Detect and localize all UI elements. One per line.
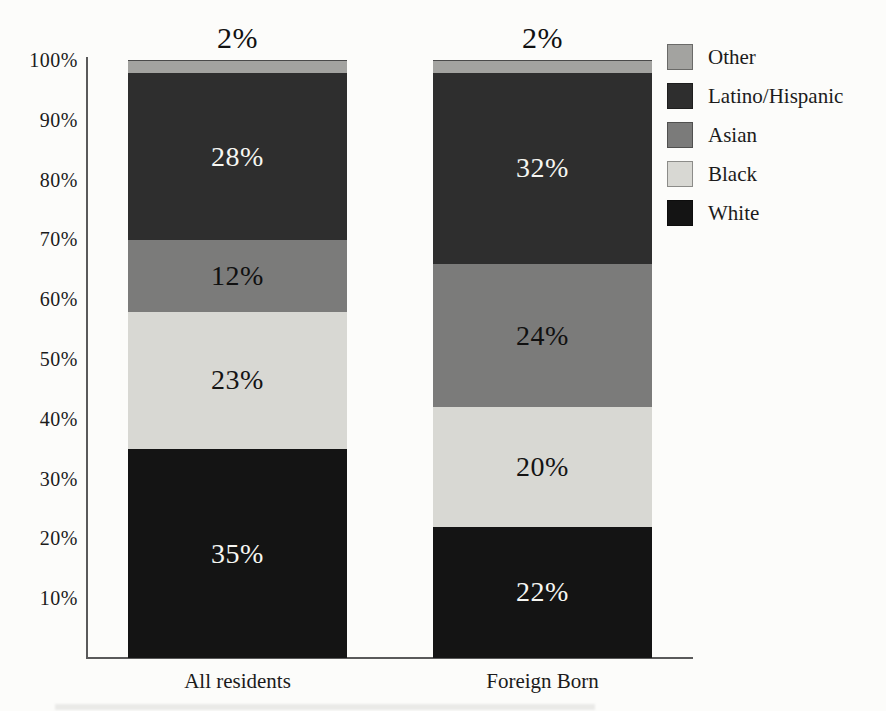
- segment-value-label: 35%: [211, 538, 264, 570]
- legend-swatch-icon: [667, 83, 693, 109]
- y-tick-100: 100%: [29, 49, 78, 72]
- segment-white-2: 22%: [433, 527, 652, 658]
- segment-other-1: [128, 60, 347, 73]
- legend-row-white: White: [667, 200, 843, 226]
- y-tick-80: 80%: [40, 168, 78, 191]
- outside-value-label-1: 2%: [128, 22, 347, 54]
- segment-value-label: 32%: [516, 152, 569, 184]
- segment-latino-hispanic-1: 28%: [128, 73, 347, 240]
- y-tick-30: 30%: [40, 467, 78, 490]
- legend-label: Asian: [708, 123, 757, 148]
- segment-latino-hispanic-2: 32%: [433, 73, 652, 264]
- segment-asian-2: 24%: [433, 264, 652, 407]
- y-tick-60: 60%: [40, 288, 78, 311]
- legend-label: Other: [708, 45, 756, 70]
- y-tick-10: 10%: [40, 587, 78, 610]
- segment-black-1: 23%: [128, 312, 347, 449]
- segment-other-2: [433, 60, 652, 73]
- legend-label: Latino/Hispanic: [708, 84, 843, 109]
- bar-foreign-born: 32%24%20%22%: [433, 60, 652, 658]
- stacked-bar-chart-page: 100%90%80%70%60%50%40%30%20%10% 28%12%23…: [0, 0, 886, 711]
- cutoff-caption-remnant: [55, 704, 595, 710]
- y-tick-70: 70%: [40, 228, 78, 251]
- legend-row-black: Black: [667, 161, 843, 187]
- segment-value-label: 20%: [516, 451, 569, 483]
- segment-value-label: 28%: [211, 141, 264, 173]
- segment-asian-1: 12%: [128, 240, 347, 312]
- legend-row-other: Other: [667, 44, 843, 70]
- legend-label: White: [708, 201, 759, 226]
- y-tick-40: 40%: [40, 407, 78, 430]
- segment-value-label: 23%: [211, 364, 264, 396]
- legend-label: Black: [708, 162, 757, 187]
- y-tick-50: 50%: [40, 348, 78, 371]
- y-axis-line: [86, 57, 88, 658]
- legend-swatch-icon: [667, 44, 693, 70]
- segment-value-label: 12%: [211, 260, 264, 292]
- legend-row-asian: Asian: [667, 122, 843, 148]
- y-tick-20: 20%: [40, 527, 78, 550]
- outside-value-label-2: 2%: [433, 22, 652, 54]
- category-label-foreign-born: Foreign Born: [393, 666, 692, 696]
- segment-value-label: 22%: [516, 576, 569, 608]
- segment-black-2: 20%: [433, 407, 652, 526]
- segment-white-1: 35%: [128, 449, 347, 658]
- segment-value-label: 24%: [516, 320, 569, 352]
- legend-swatch-icon: [667, 200, 693, 226]
- legend-swatch-icon: [667, 122, 693, 148]
- bar-all-residents: 28%12%23%35%: [128, 60, 347, 658]
- y-tick-90: 90%: [40, 108, 78, 131]
- legend-swatch-icon: [667, 161, 693, 187]
- legend: OtherLatino/HispanicAsianBlackWhite: [667, 44, 843, 239]
- legend-row-latino-hispanic: Latino/Hispanic: [667, 83, 843, 109]
- category-label-all-residents: All residents: [88, 666, 387, 696]
